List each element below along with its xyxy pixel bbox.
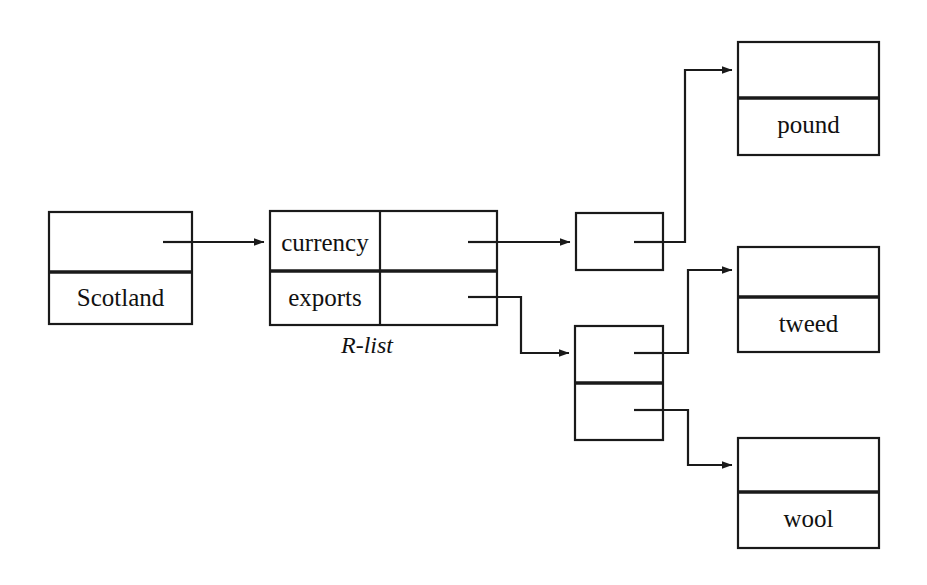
pound-value-label: pound (777, 111, 840, 138)
node-cons-exports[interactable] (575, 326, 663, 440)
wool-value-label: wool (784, 505, 834, 532)
diagram-svg: Scotland currency exports R-list (0, 0, 927, 585)
tweed-value-label: tweed (779, 310, 839, 337)
node-pound[interactable]: pound (738, 42, 879, 155)
node-r-list[interactable]: currency exports R-list (270, 211, 497, 358)
node-tweed[interactable]: tweed (738, 247, 879, 352)
diagram-canvas: Scotland currency exports R-list (0, 0, 927, 585)
node-scotland[interactable]: Scotland (49, 212, 192, 324)
node-wool[interactable]: wool (738, 438, 879, 548)
scotland-value-label: Scotland (77, 284, 165, 311)
rlist-exports-label: exports (288, 284, 362, 311)
rlist-caption: R-list (340, 332, 394, 358)
rlist-currency-label: currency (281, 229, 369, 256)
